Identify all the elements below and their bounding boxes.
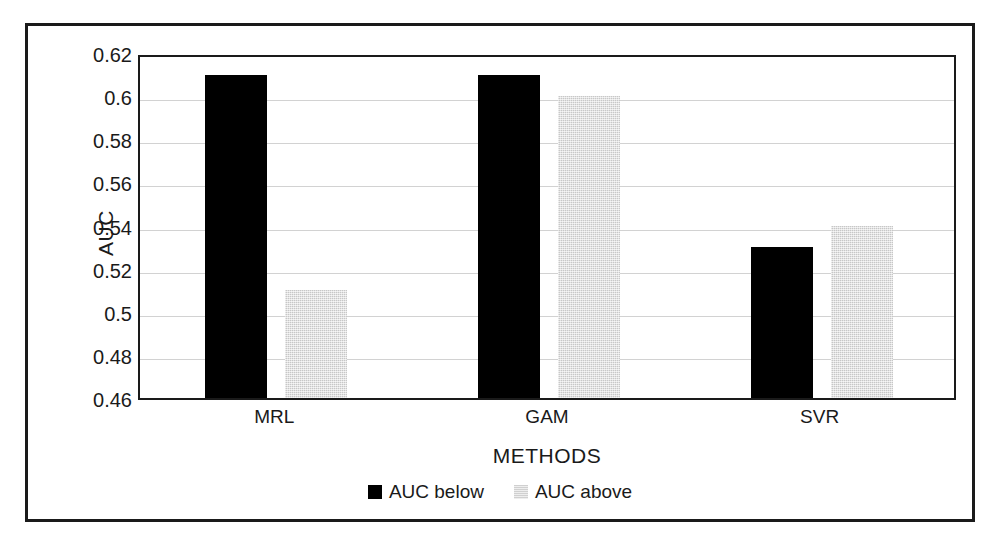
black-square-swatch (368, 485, 382, 499)
x-axis-tick-label-gam: GAM (525, 406, 568, 428)
legend-item-auc-below: AUC below (368, 481, 484, 503)
bar-svr-auc-above (831, 226, 893, 399)
legend-item-auc-above: AUC above (514, 481, 632, 503)
legend-label: AUC above (535, 481, 632, 503)
x-axis-tick-label-mrl: MRL (254, 406, 294, 428)
x-axis-tick-label-svr: SVR (800, 406, 839, 428)
chart-legend: AUC belowAUC above (28, 481, 972, 503)
bar-gam-auc-below (478, 75, 540, 398)
y-axis-tick-label: 0.54 (48, 216, 132, 239)
y-axis-tick-label: 0.46 (48, 389, 132, 412)
bar-mrl-auc-below (205, 75, 267, 398)
x-axis-tick-labels: MRLGAMSVR (138, 406, 956, 436)
y-axis-tick-label: 0.52 (48, 259, 132, 282)
y-axis-tick-label: 0.48 (48, 345, 132, 368)
plot-inner (140, 57, 954, 398)
plot-area (138, 55, 956, 400)
bar-mrl-auc-above (285, 290, 347, 398)
bar-gam-auc-above (558, 96, 620, 398)
y-axis-tick-label: 0.6 (48, 87, 132, 110)
y-axis-tick-label: 0.56 (48, 173, 132, 196)
y-axis-tick-label: 0.62 (48, 44, 132, 67)
figure-frame: AUC 0.620.60.580.560.540.520.50.480.46 M… (25, 23, 975, 522)
y-axis-tick-labels: 0.620.60.580.560.540.520.50.480.46 (28, 55, 132, 400)
bar-svr-auc-below (751, 247, 813, 398)
x-axis-title: METHODS (138, 444, 956, 468)
y-axis-tick-label: 0.5 (48, 302, 132, 325)
gray-square-swatch (514, 485, 528, 499)
y-axis-tick-label: 0.58 (48, 130, 132, 153)
legend-label: AUC below (389, 481, 484, 503)
